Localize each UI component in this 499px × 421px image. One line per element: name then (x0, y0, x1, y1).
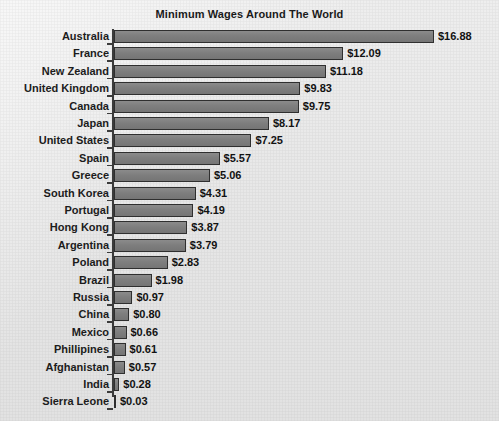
chart-row: Poland$2.83 (0, 255, 499, 272)
category-label: India (0, 377, 114, 392)
chart-row: Mexico$0.66 (0, 325, 499, 342)
chart-row: United Kingdom$9.83 (0, 81, 499, 98)
chart-row: Sierra Leone$0.03 (0, 394, 499, 411)
category-label: Sierra Leone (0, 394, 114, 409)
plot-area: Australia$16.88France$12.09New Zealand$1… (0, 29, 499, 404)
bar-value-label: $4.19 (197, 203, 225, 218)
bar (114, 239, 186, 252)
category-label: Mexico (0, 325, 114, 340)
chart-row: Australia$16.88 (0, 29, 499, 46)
category-label: Hong Kong (0, 220, 114, 235)
axis-tick (107, 78, 113, 80)
chart-row: Canada$9.75 (0, 99, 499, 116)
category-label: South Korea (0, 186, 114, 201)
category-label: Argentina (0, 238, 114, 253)
category-label: China (0, 307, 114, 322)
chart-row: United States$7.25 (0, 133, 499, 150)
bar-value-label: $12.09 (347, 46, 381, 61)
bar-value-label: $5.57 (224, 151, 252, 166)
bar-value-label: $0.66 (131, 325, 159, 340)
bar (114, 187, 196, 200)
axis-tick (107, 391, 113, 393)
bar-value-label: $3.87 (191, 220, 219, 235)
bar (114, 378, 119, 391)
chart-row: Brazil$1.98 (0, 273, 499, 290)
axis-tick (107, 234, 113, 236)
category-label: Greece (0, 168, 114, 183)
bar (114, 134, 251, 147)
axis-tick (107, 165, 113, 167)
bar (114, 361, 125, 374)
chart-row: Japan$8.17 (0, 116, 499, 133)
category-label: Canada (0, 99, 114, 114)
axis-tick (107, 200, 113, 202)
category-label: Portugal (0, 203, 114, 218)
bar-value-label: $9.83 (304, 81, 332, 96)
bar (114, 308, 129, 321)
axis-tick (107, 269, 113, 271)
axis-tick (107, 130, 113, 132)
category-label: Australia (0, 29, 114, 44)
bar (114, 274, 152, 287)
axis-tick (107, 339, 113, 341)
bar-value-label: $16.88 (438, 29, 472, 44)
bar (114, 117, 269, 130)
chart-title: Minimum Wages Around The World (0, 8, 499, 20)
category-label: New Zealand (0, 64, 114, 79)
axis-tick (107, 147, 113, 149)
bar (114, 395, 116, 408)
category-label: France (0, 46, 114, 61)
axis-tick (107, 374, 113, 376)
bar (114, 82, 300, 95)
bar-value-label: $1.98 (156, 273, 184, 288)
bar (114, 100, 299, 113)
bar-value-label: $0.57 (129, 360, 157, 375)
bar-value-label: $4.31 (200, 186, 228, 201)
axis-tick (107, 252, 113, 254)
bar (114, 221, 187, 234)
category-label: Japan (0, 116, 114, 131)
chart-row: South Korea$4.31 (0, 186, 499, 203)
axis-tick (107, 356, 113, 358)
bar-value-label: $0.61 (130, 342, 158, 357)
category-label: Afghanistan (0, 360, 114, 375)
axis-tick (107, 95, 113, 97)
chart-row: India$0.28 (0, 377, 499, 394)
axis-tick (107, 113, 113, 115)
category-label: Spain (0, 151, 114, 166)
chart-row: Greece$5.06 (0, 168, 499, 185)
bar-value-label: $5.06 (214, 168, 242, 183)
bar (114, 256, 168, 269)
chart-row: China$0.80 (0, 307, 499, 324)
category-label: Brazil (0, 273, 114, 288)
bar (114, 343, 126, 356)
chart-row: Portugal$4.19 (0, 203, 499, 220)
chart-row: Phillipines$0.61 (0, 342, 499, 359)
category-label: Poland (0, 255, 114, 270)
bar (114, 47, 343, 60)
bar (114, 326, 127, 339)
category-label: United States (0, 133, 114, 148)
axis-tick (107, 182, 113, 184)
bar (114, 204, 193, 217)
category-label: Russia (0, 290, 114, 305)
category-label: United Kingdom (0, 81, 114, 96)
bar-value-label: $7.25 (255, 133, 283, 148)
chart-row: France$12.09 (0, 46, 499, 63)
axis-tick (107, 304, 113, 306)
chart-row: Hong Kong$3.87 (0, 220, 499, 237)
bar-value-label: $9.75 (303, 99, 331, 114)
category-label: Phillipines (0, 342, 114, 357)
chart-row: Afghanistan$0.57 (0, 360, 499, 377)
bar-value-label: $2.83 (172, 255, 200, 270)
chart-row: Spain$5.57 (0, 151, 499, 168)
minimum-wages-bar-chart: Minimum Wages Around The World Australia… (0, 0, 499, 421)
bar-value-label: $8.17 (273, 116, 301, 131)
bar (114, 152, 220, 165)
chart-row: Russia$0.97 (0, 290, 499, 307)
axis-tick (107, 217, 113, 219)
bar (114, 291, 132, 304)
axis-tick (107, 321, 113, 323)
chart-row: New Zealand$11.18 (0, 64, 499, 81)
axis-tick (107, 43, 113, 45)
